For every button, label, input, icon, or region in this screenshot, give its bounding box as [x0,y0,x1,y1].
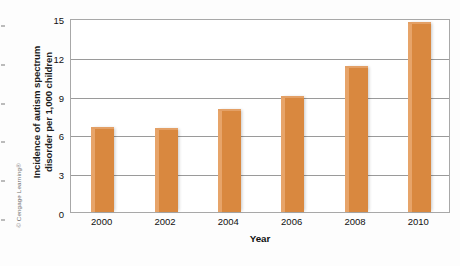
gridline [71,59,449,60]
y-axis-tick-label: 3 [5,170,71,181]
x-axis-tick-label-2000: 2000 [72,216,132,227]
x-axis-tick-label-2002: 2002 [135,216,195,227]
bar-2002[interactable] [155,128,178,212]
bar-2004[interactable] [218,109,241,212]
bar-2008[interactable] [345,66,368,212]
gridline [71,136,449,137]
y-axis-tick-label: 15 [5,15,71,26]
plot-inner: 03691215 [71,20,449,212]
y-axis-tick-label: 9 [5,92,71,103]
bar-2010[interactable] [408,22,431,212]
y-axis-tick-mark [1,64,5,65]
y-axis-title-line-2: disorder per 1,000 children [43,52,55,172]
x-axis-tick-label-2006: 2006 [262,216,322,227]
x-axis-tick-label-2008: 2008 [325,216,385,227]
y-axis-tick-mark [1,142,5,143]
y-axis-title: Incidence of autism spectrum disorder pe… [28,6,58,218]
y-axis-tick-label: 0 [5,209,71,220]
gridline [71,175,449,176]
bar-2000[interactable] [91,127,114,212]
copyright-attribution: © Cengage Learning® [15,148,22,244]
x-axis-title: Year [70,233,450,244]
gridline [71,98,449,99]
y-axis-tick-label: 12 [5,53,71,64]
x-axis-tick-label-2004: 2004 [198,216,258,227]
bar-chart-figure: © Cengage Learning® Incidence of autism … [0,0,460,266]
y-axis-tick-mark [1,181,5,182]
bar-2006[interactable] [281,96,304,212]
y-axis-tick-mark [1,103,5,104]
y-axis-title-line-1: Incidence of autism spectrum [31,46,43,179]
plot-area: 03691215 [70,19,450,213]
x-axis-tick-label-2010: 2010 [388,216,448,227]
y-axis-tick-mark [1,220,5,221]
y-axis-tick-label: 6 [5,131,71,142]
y-axis-tick-mark [1,26,5,27]
